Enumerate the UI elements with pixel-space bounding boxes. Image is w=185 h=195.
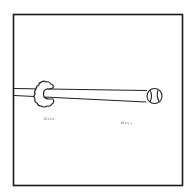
comic-panel xyxy=(0,0,185,195)
ball xyxy=(147,89,162,104)
